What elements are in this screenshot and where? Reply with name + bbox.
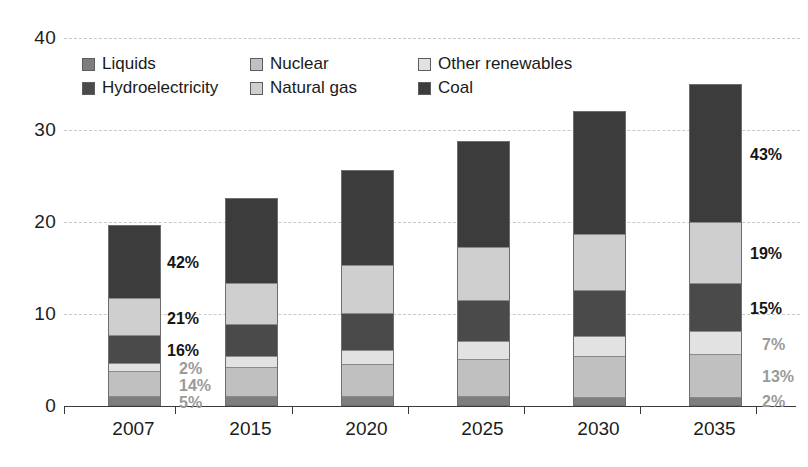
legend-label: Natural gas: [270, 78, 357, 98]
legend-swatch-icon: [82, 58, 95, 71]
y-axis-tick-label: 10: [10, 303, 56, 325]
bar-segment-liquids[interactable]: [226, 397, 277, 405]
x-axis-label-2015: 2015: [191, 418, 311, 440]
percent-label-2035-hydroelectricity: 15%: [750, 300, 782, 318]
y-axis-tick-label: 0: [10, 395, 56, 417]
bar-segment-liquids[interactable]: [458, 397, 509, 405]
bar-segment-liquids[interactable]: [109, 397, 160, 405]
x-axis-tick: [292, 406, 293, 414]
percent-label-2035-natural-gas: 19%: [750, 245, 782, 263]
bar-segment-nuclear[interactable]: [109, 372, 160, 397]
percent-label-2007-liquids: 5%: [179, 394, 202, 412]
x-axis-label-2007: 2007: [74, 418, 194, 440]
bar-segment-nuclear[interactable]: [690, 355, 741, 397]
percent-label-2035-liquids: 2%: [762, 393, 785, 411]
y-axis-tick-label: 30: [10, 119, 56, 141]
legend-swatch-icon: [82, 82, 95, 95]
stacked-bar-chart: 010203040 42%21%16%2%14%5%43%19%15%7%13%…: [0, 0, 808, 467]
bar-segment-other-renewables[interactable]: [109, 364, 160, 372]
percent-label-2007-other-renewables: 2%: [179, 360, 202, 378]
bar-2030[interactable]: [573, 111, 626, 406]
y-axis-tick-label: 40: [10, 27, 56, 49]
bar-segment-coal[interactable]: [342, 171, 393, 266]
x-axis-tick: [175, 406, 176, 414]
legend-swatch-icon: [250, 82, 263, 95]
bar-segment-natural-gas[interactable]: [690, 223, 741, 284]
bar-segment-other-renewables[interactable]: [690, 332, 741, 355]
legend-item-nuclear[interactable]: Nuclear: [250, 54, 418, 74]
bar-segment-nuclear[interactable]: [458, 360, 509, 397]
legend-label: Coal: [438, 78, 473, 98]
bar-segment-natural-gas[interactable]: [458, 248, 509, 301]
bar-segment-other-renewables[interactable]: [574, 337, 625, 357]
bar-2025[interactable]: [457, 141, 510, 406]
bar-segment-coal[interactable]: [690, 85, 741, 223]
x-axis-label-2035: 2035: [655, 418, 775, 440]
legend-swatch-icon: [418, 58, 431, 71]
gridline: [64, 38, 800, 39]
legend-item-coal[interactable]: Coal: [418, 78, 612, 98]
bar-segment-other-renewables[interactable]: [226, 357, 277, 368]
percent-label-2035-coal: 43%: [750, 146, 782, 164]
x-axis-label-2025: 2025: [423, 418, 543, 440]
x-axis-label-2030: 2030: [539, 418, 659, 440]
bar-segment-natural-gas[interactable]: [342, 266, 393, 314]
x-axis-label-2020: 2020: [307, 418, 427, 440]
bar-2035[interactable]: [689, 84, 742, 406]
bar-segment-hydroelectricity[interactable]: [109, 336, 160, 364]
percent-label-2035-other-renewables: 7%: [762, 336, 785, 354]
percent-label-2007-natural-gas: 21%: [167, 310, 199, 328]
bar-segment-coal[interactable]: [574, 112, 625, 235]
x-axis-tick: [64, 406, 65, 414]
bar-2007[interactable]: [108, 225, 161, 406]
bar-segment-natural-gas[interactable]: [226, 284, 277, 325]
x-axis-tick: [524, 406, 525, 414]
legend-item-hydroelectricity[interactable]: Hydroelectricity: [82, 78, 250, 98]
bar-segment-coal[interactable]: [458, 142, 509, 248]
bar-2015[interactable]: [225, 198, 278, 406]
legend-item-other-renewables[interactable]: Other renewables: [418, 54, 612, 74]
percent-label-2035-nuclear: 13%: [762, 368, 794, 386]
bar-2020[interactable]: [341, 170, 394, 406]
bar-segment-nuclear[interactable]: [574, 357, 625, 397]
percent-label-2007-hydroelectricity: 16%: [167, 342, 199, 360]
percent-label-2007-coal: 42%: [167, 254, 199, 272]
bar-segment-hydroelectricity[interactable]: [342, 314, 393, 351]
bar-segment-nuclear[interactable]: [342, 365, 393, 397]
legend-label: Liquids: [102, 54, 156, 74]
bar-segment-hydroelectricity[interactable]: [690, 284, 741, 333]
legend-item-liquids[interactable]: Liquids: [82, 54, 250, 74]
bar-segment-nuclear[interactable]: [226, 368, 277, 397]
x-axis-tick: [640, 406, 641, 414]
bar-segment-hydroelectricity[interactable]: [574, 291, 625, 337]
x-axis-tick: [408, 406, 409, 414]
legend-label: Nuclear: [270, 54, 329, 74]
bar-segment-hydroelectricity[interactable]: [226, 325, 277, 357]
bar-segment-other-renewables[interactable]: [458, 342, 509, 359]
bar-segment-other-renewables[interactable]: [342, 351, 393, 365]
legend-swatch-icon: [250, 58, 263, 71]
bar-segment-liquids[interactable]: [574, 398, 625, 405]
bar-segment-hydroelectricity[interactable]: [458, 301, 509, 342]
bar-segment-natural-gas[interactable]: [574, 235, 625, 291]
legend-label: Other renewables: [438, 54, 572, 74]
y-axis-tick-label: 20: [10, 211, 56, 233]
legend-item-natural-gas[interactable]: Natural gas: [250, 78, 418, 98]
bar-segment-coal[interactable]: [226, 199, 277, 284]
bar-segment-coal[interactable]: [109, 226, 160, 300]
bar-segment-liquids[interactable]: [342, 397, 393, 405]
chart-legend: LiquidsNuclearOther renewablesHydroelect…: [82, 52, 612, 100]
bar-segment-natural-gas[interactable]: [109, 299, 160, 336]
bar-segment-liquids[interactable]: [690, 398, 741, 405]
x-axis-tick: [756, 406, 757, 414]
legend-swatch-icon: [418, 82, 431, 95]
x-axis-line: [64, 406, 796, 407]
percent-label-2007-nuclear: 14%: [179, 377, 211, 395]
legend-label: Hydroelectricity: [102, 78, 218, 98]
